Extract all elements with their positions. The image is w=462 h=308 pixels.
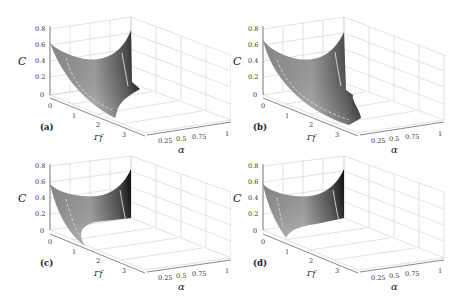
panel-d: 0.8 0.6 0.4 0.2 0 C 0 1 2 3 Γf 0.25 0.5 … [231, 154, 462, 308]
panel-b: 0.8 0.6 0.4 0.2 0 C 0 1 2 3 Γf 0.25 0.5 … [231, 0, 462, 154]
svg-text:α: α [391, 281, 398, 292]
svg-text:Γf: Γf [93, 133, 105, 142]
svg-text:C: C [18, 55, 27, 68]
svg-text:0: 0 [253, 227, 257, 235]
svg-text:0: 0 [253, 91, 257, 99]
svg-text:0.25: 0.25 [371, 274, 385, 282]
svg-text:0.2: 0.2 [35, 210, 45, 218]
svg-text:2: 2 [309, 257, 313, 265]
svg-text:C: C [233, 55, 242, 68]
svg-text:Γf: Γf [306, 269, 318, 278]
panel-label: (c) [40, 258, 53, 268]
surface-plot-a: 0.8 0.6 0.4 0.2 0 C 0 1 2 3 Γf 0.25 0.5 … [0, 0, 231, 154]
svg-text:1: 1 [72, 112, 76, 120]
svg-text:C: C [18, 192, 27, 205]
svg-text:C: C [233, 192, 242, 205]
svg-text:0.8: 0.8 [35, 25, 45, 33]
svg-text:2: 2 [96, 121, 100, 129]
svg-text:0.4: 0.4 [248, 57, 258, 65]
svg-text:0.4: 0.4 [35, 194, 45, 202]
svg-text:α: α [391, 144, 398, 154]
svg-text:0: 0 [40, 227, 44, 235]
svg-text:0: 0 [261, 102, 265, 110]
svg-text:3: 3 [122, 267, 126, 275]
svg-text:1: 1 [438, 267, 442, 275]
svg-text:0: 0 [48, 102, 52, 110]
surface-plot-b: 0.8 0.6 0.4 0.2 0 C 0 1 2 3 Γf 0.25 0.5 … [231, 0, 462, 154]
svg-text:1: 1 [285, 112, 289, 120]
svg-text:1: 1 [72, 248, 76, 256]
svg-text:0.5: 0.5 [176, 272, 186, 280]
svg-text:0.6: 0.6 [35, 178, 45, 186]
svg-text:3: 3 [335, 131, 339, 139]
svg-text:0: 0 [261, 238, 265, 246]
panel-a: 0.8 0.6 0.4 0.2 0 C 0 1 2 3 Γf 0.25 0.5 … [0, 0, 231, 154]
svg-text:0.8: 0.8 [248, 162, 258, 170]
svg-text:α: α [178, 144, 185, 154]
surface-plot-d: 0.8 0.6 0.4 0.2 0 C 0 1 2 3 Γf 0.25 0.5 … [231, 154, 462, 308]
panel-c: 0.8 0.6 0.4 0.2 0 C 0 1 2 3 Γf 0.25 0.5 … [0, 154, 231, 308]
svg-text:2: 2 [309, 121, 313, 129]
svg-text:0: 0 [48, 238, 52, 246]
svg-text:α: α [178, 281, 185, 292]
svg-text:1: 1 [285, 248, 289, 256]
svg-text:0.75: 0.75 [405, 133, 419, 141]
surface-plot-c: 0.8 0.6 0.4 0.2 0 C 0 1 2 3 Γf 0.25 0.5 … [0, 154, 231, 308]
svg-text:Γf: Γf [306, 133, 318, 142]
panel-label: (b) [253, 122, 267, 132]
svg-text:0.25: 0.25 [371, 137, 385, 145]
svg-text:0.8: 0.8 [35, 162, 45, 170]
svg-text:0.75: 0.75 [192, 270, 206, 278]
svg-text:0.75: 0.75 [405, 270, 419, 278]
panel-label: (a) [40, 122, 54, 132]
svg-text:0.25: 0.25 [158, 274, 172, 282]
svg-text:1: 1 [225, 267, 229, 275]
svg-text:2: 2 [96, 257, 100, 265]
svg-text:0.5: 0.5 [176, 135, 186, 143]
svg-text:0.2: 0.2 [248, 210, 258, 218]
svg-text:3: 3 [122, 131, 126, 139]
svg-text:Γf: Γf [93, 269, 105, 278]
svg-text:0.6: 0.6 [35, 41, 45, 49]
svg-text:0.6: 0.6 [248, 178, 258, 186]
svg-text:0.8: 0.8 [248, 25, 258, 33]
svg-text:0: 0 [40, 91, 44, 99]
svg-text:0.75: 0.75 [192, 133, 206, 141]
svg-text:0.5: 0.5 [389, 135, 399, 143]
svg-text:0.4: 0.4 [248, 194, 258, 202]
svg-text:0.25: 0.25 [158, 137, 172, 145]
svg-text:3: 3 [335, 267, 339, 275]
svg-text:0.6: 0.6 [248, 41, 258, 49]
svg-text:0.2: 0.2 [248, 73, 258, 81]
svg-text:0.4: 0.4 [35, 57, 45, 65]
panel-label: (d) [253, 258, 267, 268]
svg-text:1: 1 [225, 130, 229, 138]
svg-text:0.2: 0.2 [35, 73, 45, 81]
svg-text:0.5: 0.5 [389, 272, 399, 280]
svg-text:1: 1 [438, 130, 442, 138]
